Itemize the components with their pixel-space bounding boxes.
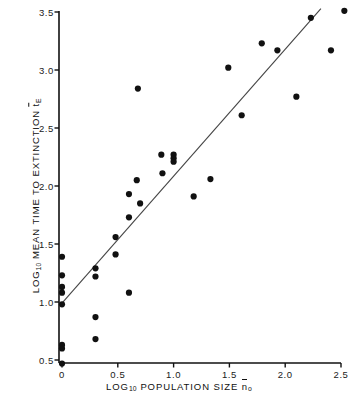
x-axis-title-subscript: 10: [129, 385, 137, 392]
data-point: [239, 112, 245, 118]
data-point: [92, 314, 98, 320]
data-point: [259, 40, 265, 46]
data-point: [112, 251, 118, 257]
data-point: [59, 301, 65, 307]
data-point: [92, 336, 98, 342]
y-axis-title-subscript: 10: [35, 263, 42, 271]
scatter-plot-figure: 0.51.01.52.02.53.03.500.51.01.52.02.5 LO…: [0, 0, 358, 401]
data-point: [341, 8, 347, 14]
data-point: [126, 290, 132, 296]
x-tick-label-3: 1.5: [222, 369, 237, 380]
axis-ticks: [55, 12, 342, 368]
x-axis-variable: n: [242, 381, 248, 392]
data-point: [225, 65, 231, 71]
y-axis-title-prefix: LOG: [30, 271, 41, 294]
data-points: [59, 8, 348, 367]
data-point: [59, 360, 65, 366]
regression-line: [62, 9, 321, 304]
y-tick-label-6: 3.5: [18, 7, 54, 18]
data-point: [135, 85, 141, 91]
y-tick-label-5: 3.0: [18, 65, 54, 76]
x-tick-label-0: 0: [59, 369, 65, 380]
data-point: [137, 200, 143, 206]
data-point: [171, 159, 177, 165]
x-tick-label-2: 1.0: [166, 369, 181, 380]
x-axis-title: LOG10 POPULATION SIZE no: [0, 381, 358, 392]
data-point: [134, 177, 140, 183]
data-point: [59, 345, 65, 351]
x-tick-label-1: 0.5: [110, 369, 125, 380]
x-axis-title-prefix: LOG: [106, 381, 129, 392]
data-point: [158, 152, 164, 158]
y-axis-variable: t: [30, 103, 41, 107]
data-point: [207, 176, 213, 182]
x-tick-label-4: 2.0: [278, 369, 293, 380]
y-axis-title-main: MEAN TIME TO EXTINCTION: [30, 106, 41, 262]
data-point: [59, 284, 65, 290]
data-point: [274, 47, 280, 53]
data-point: [59, 290, 65, 296]
y-axis-title: LOG10 MEAN TIME TO EXTINCTION tE: [30, 76, 41, 316]
data-point: [59, 272, 65, 278]
x-axis-title-main: POPULATION SIZE: [137, 381, 242, 392]
data-point: [293, 94, 299, 100]
data-point: [112, 234, 118, 240]
x-tick-label-5: 2.5: [333, 369, 348, 380]
plot-canvas: [0, 0, 358, 401]
data-point: [126, 214, 132, 220]
data-point: [59, 254, 65, 260]
x-axis-variable-group: n: [242, 381, 248, 392]
y-axis-variable-group: t: [30, 103, 41, 107]
data-point: [92, 265, 98, 271]
axis-lines: [59, 11, 341, 363]
data-point: [328, 47, 334, 53]
hat-bar: [242, 379, 247, 380]
overline-bar: [29, 103, 30, 106]
data-point: [308, 15, 314, 21]
data-point: [126, 191, 132, 197]
x-axis-variable-subscript: o: [248, 385, 252, 392]
data-point: [159, 170, 165, 176]
data-point: [92, 273, 98, 279]
data-point: [191, 193, 197, 199]
y-tick-label-0: 0.5: [18, 355, 54, 366]
regression-line-path: [62, 9, 321, 304]
